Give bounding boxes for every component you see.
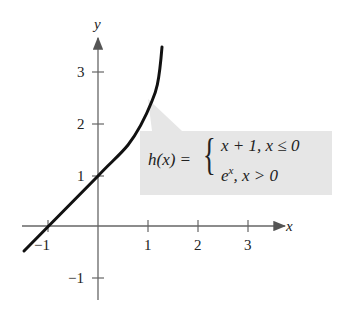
- y-tick-label: 1: [77, 168, 85, 184]
- y-axis-label: y: [92, 16, 101, 32]
- case2-condition: , x > 0: [233, 166, 278, 185]
- y-tick-label: 3: [77, 64, 85, 80]
- formula-case-2: ex, x > 0: [221, 164, 278, 186]
- x-tick-label: 1: [144, 237, 152, 253]
- y-tick-label: 2: [77, 116, 85, 132]
- formula-lhs: h(x) =: [148, 150, 191, 170]
- case2-base: e: [221, 166, 229, 185]
- x-axis-label: x: [285, 218, 293, 234]
- x-tick-label: 2: [194, 237, 202, 253]
- x-tick-label: 3: [244, 237, 252, 253]
- callout-pointer: [148, 99, 182, 131]
- y-tick-label: −1: [68, 270, 84, 286]
- formula-brace: {: [203, 133, 216, 177]
- formula-case-1: x + 1, x ≤ 0: [221, 136, 299, 156]
- x-tick-label: −1: [34, 237, 50, 253]
